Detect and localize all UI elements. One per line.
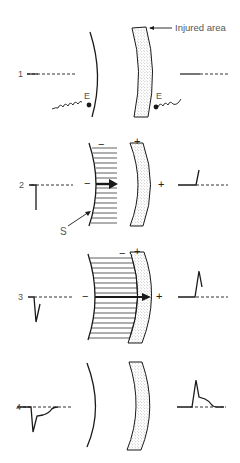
injured-area-label: Injured area [175, 23, 226, 33]
panel-number-4: 4 [16, 403, 21, 412]
minus-sign: − [82, 291, 88, 302]
panel-1 [27, 26, 228, 117]
electrode-wire-left [52, 101, 82, 109]
plus-sign: + [156, 291, 162, 302]
panel-3 [28, 252, 228, 343]
trace-right [178, 271, 202, 297]
injury-current-diagram: Injured area 1 E E 2 − + − + S 3 − + − +… [0, 0, 240, 463]
minus-sign: − [98, 139, 104, 150]
trace-left [29, 185, 36, 210]
electrode-right [154, 105, 159, 110]
plus-sign: + [134, 246, 140, 257]
minus-sign: − [84, 178, 90, 189]
panel-number-2: 2 [19, 181, 24, 190]
injured-band [127, 362, 150, 450]
stimulus-label: S [60, 227, 67, 237]
trace-left [17, 407, 58, 432]
injured-band [132, 27, 153, 117]
electrode-label-left: E [84, 92, 90, 101]
plus-sign: + [158, 179, 164, 190]
trace-right [178, 170, 199, 185]
trace-right [177, 380, 224, 407]
panel-number-3: 3 [18, 293, 23, 302]
injured-band [130, 143, 151, 226]
electrode-label-right: E [156, 92, 162, 101]
trace-left [28, 297, 40, 322]
membrane-arc [87, 363, 96, 447]
electrode-left [87, 103, 92, 108]
panel-4 [17, 362, 226, 450]
diagram-graphics [0, 0, 240, 463]
panel-number-1: 1 [18, 70, 23, 79]
plus-sign: + [134, 136, 140, 147]
minus-sign: − [119, 248, 125, 259]
panel-2 [29, 143, 228, 226]
